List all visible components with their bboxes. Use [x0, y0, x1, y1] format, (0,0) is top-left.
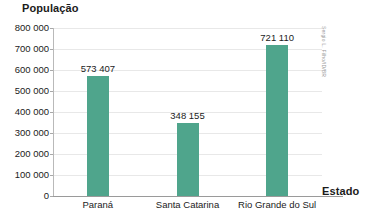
x-axis-category-label: Santa Catarina	[138, 200, 238, 210]
bar[interactable]	[177, 123, 199, 196]
bar-value-label: 348 155	[158, 111, 218, 121]
x-axis-category-label: Paraná	[48, 200, 148, 210]
x-axis-category-label: Rio Grande do Sul	[227, 200, 327, 210]
image-credit: Sergio L. Filho/ID/BR	[321, 26, 327, 77]
y-axis-tick-label: 700 000	[15, 44, 49, 54]
bar[interactable]	[87, 76, 109, 196]
y-axis-tick-label: 600 000	[15, 65, 49, 75]
bar[interactable]	[266, 45, 288, 196]
y-axis-tick-label: 800 000	[15, 23, 49, 33]
bar-value-label: 721 110	[247, 33, 307, 43]
x-axis-line	[53, 196, 343, 197]
y-axis-line	[53, 28, 54, 197]
y-axis-tick-label: 100 000	[15, 170, 49, 180]
y-axis-tick-label: 400 000	[15, 107, 49, 117]
bar-chart-figure: População Estado 0100 000200 000300 0004…	[0, 0, 365, 220]
gridline	[53, 28, 322, 29]
y-axis-tick-labels: 0100 000200 000300 000400 000500 000600 …	[0, 0, 49, 220]
y-axis-tick-label: 200 000	[15, 149, 49, 159]
bar-value-label: 573 407	[68, 64, 128, 74]
y-axis-tick-label: 300 000	[15, 128, 49, 138]
y-axis-tick-label: 500 000	[15, 86, 49, 96]
